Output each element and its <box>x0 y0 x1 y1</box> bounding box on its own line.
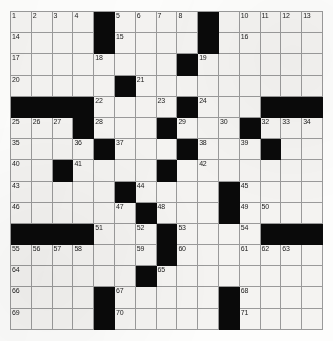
grid-letter-cell[interactable]: 58 <box>73 245 94 266</box>
grid-letter-cell[interactable]: 16 <box>240 33 261 54</box>
grid-letter-cell[interactable]: 49 <box>240 203 261 224</box>
grid-letter-cell[interactable] <box>53 139 74 160</box>
grid-letter-cell[interactable]: 56 <box>32 245 53 266</box>
grid-letter-cell[interactable]: 18 <box>94 54 115 75</box>
grid-letter-cell[interactable] <box>115 266 136 287</box>
grid-letter-cell[interactable]: 22 <box>94 97 115 118</box>
grid-letter-cell[interactable] <box>219 97 240 118</box>
grid-letter-cell[interactable]: 35 <box>11 139 32 160</box>
grid-letter-cell[interactable] <box>136 160 157 181</box>
grid-letter-cell[interactable]: 29 <box>177 118 198 139</box>
grid-letter-cell[interactable]: 69 <box>11 309 32 330</box>
grid-letter-cell[interactable] <box>261 287 282 308</box>
grid-letter-cell[interactable] <box>73 309 94 330</box>
grid-letter-cell[interactable] <box>219 224 240 245</box>
grid-letter-cell[interactable]: 37 <box>115 139 136 160</box>
grid-letter-cell[interactable]: 57 <box>53 245 74 266</box>
grid-letter-cell[interactable]: 23 <box>157 97 178 118</box>
grid-letter-cell[interactable]: 4 <box>73 12 94 33</box>
grid-letter-cell[interactable] <box>32 203 53 224</box>
grid-letter-cell[interactable]: 61 <box>240 245 261 266</box>
grid-letter-cell[interactable] <box>73 33 94 54</box>
grid-letter-cell[interactable] <box>281 182 302 203</box>
grid-letter-cell[interactable] <box>261 33 282 54</box>
grid-letter-cell[interactable] <box>281 76 302 97</box>
grid-letter-cell[interactable]: 52 <box>136 224 157 245</box>
grid-letter-cell[interactable] <box>177 160 198 181</box>
grid-letter-cell[interactable] <box>157 54 178 75</box>
grid-letter-cell[interactable]: 59 <box>136 245 157 266</box>
grid-letter-cell[interactable] <box>198 309 219 330</box>
grid-letter-cell[interactable] <box>198 266 219 287</box>
grid-letter-cell[interactable] <box>219 266 240 287</box>
grid-letter-cell[interactable] <box>32 160 53 181</box>
grid-letter-cell[interactable]: 15 <box>115 33 136 54</box>
grid-letter-cell[interactable]: 7 <box>157 12 178 33</box>
grid-letter-cell[interactable]: 5 <box>115 12 136 33</box>
grid-letter-cell[interactable] <box>177 287 198 308</box>
grid-letter-cell[interactable]: 43 <box>11 182 32 203</box>
grid-letter-cell[interactable] <box>177 33 198 54</box>
grid-letter-cell[interactable] <box>115 224 136 245</box>
grid-letter-cell[interactable] <box>115 97 136 118</box>
grid-letter-cell[interactable]: 38 <box>198 139 219 160</box>
grid-letter-cell[interactable] <box>73 182 94 203</box>
grid-letter-cell[interactable] <box>198 182 219 203</box>
grid-letter-cell[interactable] <box>281 33 302 54</box>
grid-letter-cell[interactable]: 10 <box>240 12 261 33</box>
grid-letter-cell[interactable] <box>302 54 323 75</box>
grid-letter-cell[interactable] <box>302 287 323 308</box>
grid-letter-cell[interactable] <box>198 245 219 266</box>
grid-letter-cell[interactable] <box>177 203 198 224</box>
grid-letter-cell[interactable] <box>261 54 282 75</box>
grid-letter-cell[interactable]: 13 <box>302 12 323 33</box>
grid-letter-cell[interactable]: 45 <box>240 182 261 203</box>
grid-letter-cell[interactable] <box>136 33 157 54</box>
grid-letter-cell[interactable]: 27 <box>53 118 74 139</box>
grid-letter-cell[interactable]: 46 <box>11 203 32 224</box>
grid-letter-cell[interactable] <box>302 266 323 287</box>
grid-letter-cell[interactable]: 36 <box>73 139 94 160</box>
grid-letter-cell[interactable]: 2 <box>32 12 53 33</box>
grid-letter-cell[interactable] <box>281 287 302 308</box>
grid-letter-cell[interactable] <box>32 54 53 75</box>
grid-letter-cell[interactable] <box>157 287 178 308</box>
grid-letter-cell[interactable] <box>219 160 240 181</box>
grid-letter-cell[interactable] <box>261 160 282 181</box>
grid-letter-cell[interactable]: 44 <box>136 182 157 203</box>
grid-letter-cell[interactable] <box>281 203 302 224</box>
grid-letter-cell[interactable] <box>73 203 94 224</box>
grid-letter-cell[interactable] <box>261 309 282 330</box>
grid-letter-cell[interactable]: 14 <box>11 33 32 54</box>
grid-letter-cell[interactable] <box>53 287 74 308</box>
grid-letter-cell[interactable]: 28 <box>94 118 115 139</box>
grid-letter-cell[interactable] <box>53 54 74 75</box>
grid-letter-cell[interactable]: 54 <box>240 224 261 245</box>
grid-letter-cell[interactable] <box>94 266 115 287</box>
grid-letter-cell[interactable]: 67 <box>115 287 136 308</box>
grid-letter-cell[interactable] <box>73 76 94 97</box>
grid-letter-cell[interactable] <box>198 76 219 97</box>
grid-letter-cell[interactable] <box>302 33 323 54</box>
grid-letter-cell[interactable] <box>198 224 219 245</box>
grid-letter-cell[interactable] <box>302 76 323 97</box>
grid-letter-cell[interactable] <box>115 118 136 139</box>
grid-letter-cell[interactable] <box>302 139 323 160</box>
grid-letter-cell[interactable]: 60 <box>177 245 198 266</box>
grid-letter-cell[interactable] <box>157 76 178 97</box>
grid-letter-cell[interactable]: 42 <box>198 160 219 181</box>
grid-letter-cell[interactable]: 63 <box>281 245 302 266</box>
grid-letter-cell[interactable]: 64 <box>11 266 32 287</box>
grid-letter-cell[interactable] <box>219 139 240 160</box>
grid-letter-cell[interactable]: 32 <box>261 118 282 139</box>
grid-letter-cell[interactable]: 50 <box>261 203 282 224</box>
grid-letter-cell[interactable]: 65 <box>157 266 178 287</box>
grid-letter-cell[interactable]: 30 <box>219 118 240 139</box>
grid-letter-cell[interactable]: 55 <box>11 245 32 266</box>
grid-letter-cell[interactable] <box>53 309 74 330</box>
grid-letter-cell[interactable]: 1 <box>11 12 32 33</box>
grid-letter-cell[interactable] <box>32 33 53 54</box>
grid-letter-cell[interactable]: 47 <box>115 203 136 224</box>
grid-letter-cell[interactable] <box>32 309 53 330</box>
grid-letter-cell[interactable]: 26 <box>32 118 53 139</box>
